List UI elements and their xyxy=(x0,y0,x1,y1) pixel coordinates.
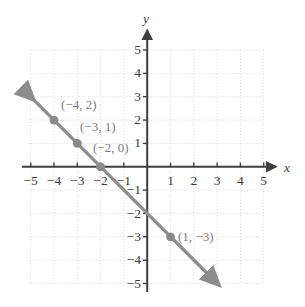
point-marker xyxy=(73,139,82,148)
point-label-minus3-1: (−3, 1) xyxy=(80,120,116,133)
x-tick-label-minus3: −3 xyxy=(70,174,84,188)
x-tick-label-2: 2 xyxy=(190,174,197,188)
x-axis-name: x xyxy=(284,161,290,175)
x-tick-label-1: 1 xyxy=(167,174,174,188)
x-tick-label-5: 5 xyxy=(260,174,267,188)
y-tick-label-3: 3 xyxy=(134,90,141,104)
y-tick-label-2: 2 xyxy=(134,113,141,127)
y-tick-label-4: 4 xyxy=(134,67,141,81)
coordinate-plane-canvas xyxy=(0,0,305,307)
point-marker xyxy=(166,232,175,241)
x-tick-label-minus5: −5 xyxy=(24,174,38,188)
x-tick-label-minus4: −4 xyxy=(47,174,61,188)
x-tick-label-3: 3 xyxy=(214,174,221,188)
y-axis-name: y xyxy=(143,12,149,26)
y-tick-label-minus2: −2 xyxy=(127,207,141,221)
point-label-minus4-2: (−4, 2) xyxy=(61,98,97,111)
y-tick-label-minus4: −4 xyxy=(127,253,141,267)
x-tick-label-minus2: −2 xyxy=(93,174,107,188)
point-marker xyxy=(50,116,59,125)
x-tick-label-4: 4 xyxy=(237,174,244,188)
point-label-1-minus3: (1, −3) xyxy=(178,230,214,243)
y-tick-label-1: 1 xyxy=(134,137,141,151)
point-label-minus2-0: (−2, 0) xyxy=(93,141,129,154)
point-marker xyxy=(96,162,105,171)
y-tick-label-minus1: −1 xyxy=(127,183,141,197)
y-tick-label-minus3: −3 xyxy=(127,230,141,244)
y-tick-label-5: 5 xyxy=(134,43,141,57)
y-tick-label-minus5: −5 xyxy=(127,277,141,291)
graph-figure: −5 −4 −3 −2 −1 1 2 3 4 5 5 4 3 2 1 −1 −2… xyxy=(0,0,305,307)
